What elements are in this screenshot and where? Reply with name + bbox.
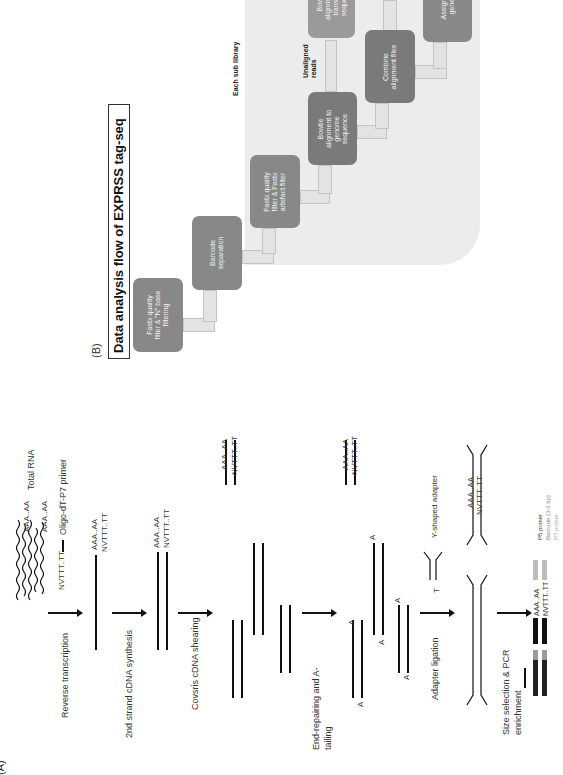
step-arrow — [48, 612, 78, 614]
unaligned-reads-label: Unaligned reads — [302, 48, 318, 78]
p7-primer-bar — [542, 560, 547, 580]
panel-a-label: (A) — [0, 760, 6, 775]
legend-p7: P7 primer — [553, 514, 559, 540]
a-tailed-fragment — [398, 605, 400, 673]
a-tailed-fragment — [352, 620, 354, 698]
cdna-strand — [95, 555, 97, 650]
step-label-2nd-strand: 2nd strand cDNA synthesis — [124, 630, 134, 738]
each-sub-library-label: Each sub library — [232, 42, 239, 96]
flow-arrow — [203, 290, 217, 322]
adapter-t: T — [432, 588, 441, 593]
step-bowtie-genome: Bowtie alignment to genome sequence — [308, 92, 357, 165]
a-overhang: A — [377, 640, 386, 645]
legend-barcode: Barcode (3-6 bp) — [545, 495, 551, 540]
a-tailed-fragment — [361, 620, 363, 698]
shear-top-seq: AAA..AA — [220, 439, 229, 470]
step-fastx-n-filter: Fastx quality filter & "N" base filterin… — [133, 278, 183, 352]
step-label-end-repair: End-repairing and A- tailing — [310, 667, 334, 750]
unaligned-arrow — [325, 40, 337, 92]
panel-b-label: (B) — [90, 343, 102, 358]
fragment — [280, 605, 282, 673]
a-tailed-fragment — [373, 543, 375, 635]
a-overhang: A — [356, 702, 365, 707]
primer-line — [62, 540, 64, 552]
y-adapter-icon — [418, 550, 448, 590]
step-fastx-artefact-filter: Fastx quality filter & Fastx artefact fi… — [250, 155, 300, 228]
ligated-product-icon — [462, 570, 492, 710]
rt-top-seq: AAA..AA — [90, 519, 99, 550]
barcode-bar — [542, 650, 547, 660]
p5-primer-bar — [533, 660, 538, 696]
figure-canvas: (B) Data analysis flow of EXPRSS tag-seq… — [0, 0, 563, 775]
a-overhang: A — [347, 620, 356, 625]
fragment — [289, 605, 291, 673]
step-barcode-separation: Barcode separation — [192, 216, 242, 290]
flow-arrow — [318, 165, 332, 194]
p5-primer-bar — [542, 660, 547, 696]
step-arrow — [302, 612, 332, 614]
ds-cdna-bottom — [166, 552, 168, 650]
step-combine-alignment: Combine alignment files — [365, 30, 415, 103]
final-bottom-seq: NVTTT..TT — [542, 582, 549, 616]
a-overhang: A — [393, 598, 402, 603]
shear-bottom-seq: NVTTT..TT — [230, 436, 239, 475]
fragment — [262, 543, 264, 635]
er-top-seq: AAA..AA — [341, 439, 350, 470]
ds-cdna-top — [157, 552, 159, 650]
er-bottom-seq: NVTTT..TT — [350, 436, 359, 475]
a-overhang: A — [368, 535, 377, 540]
fragment — [241, 620, 243, 698]
flow-arrow — [433, 42, 447, 69]
a-tailed-fragment — [382, 543, 384, 635]
lig-bottom-seq: NVTTT..TT — [475, 476, 484, 515]
fragment — [253, 543, 255, 635]
ds-top-seq: AAA..AA — [152, 517, 161, 548]
final-top-seq: AAA..AA — [533, 589, 540, 616]
insert-bar — [533, 618, 538, 644]
step-label-size-selection: Size selection & PCR enrichment — [500, 649, 524, 735]
step-label-shearing: Covsris cDNA shearing — [190, 617, 200, 710]
a-tailed-fragment — [407, 605, 409, 673]
total-rna-label: Total RNA — [26, 449, 36, 490]
primer-label: Oligo-dT-P7 primer — [58, 459, 68, 535]
primer-seq: NVTTT..TT — [57, 551, 66, 590]
step-arrow — [420, 612, 450, 614]
legend-p5: P5 primer — [537, 514, 543, 540]
rt-bottom-seq: NVTTT..TT — [100, 513, 109, 552]
polya-label: AAA..AA — [40, 501, 49, 532]
flow-arrow — [375, 103, 389, 129]
step-assign-genes: Assign to genes — [423, 0, 472, 42]
a-overhang: A — [402, 675, 411, 680]
step-label-reverse-transcription: Reverse transcription — [60, 633, 70, 718]
insert-bar — [542, 618, 547, 644]
step-arrow — [178, 612, 208, 614]
read-direction-arrow — [524, 668, 526, 688]
flow-arrow — [262, 228, 276, 254]
step-arrow — [497, 612, 527, 614]
lig-top-seq: AAA..AA — [466, 477, 475, 508]
polya-label: AAA..AA — [22, 501, 31, 532]
barcode-bar — [533, 650, 538, 660]
fragment — [232, 620, 234, 698]
merge-arrow — [383, 0, 397, 32]
step-bowtie-transcript: Bowtie alignment to transcript sequence — [308, 0, 355, 38]
y-adapter-label: Y-shaped adapter — [430, 475, 439, 538]
step-label-adapter-ligation: Adapter ligation — [430, 637, 440, 700]
ds-bottom-seq: NVTTT..TT — [162, 509, 171, 548]
panel-b-title: Data analysis flow of EXPRSS tag-seq — [111, 118, 126, 353]
step-arrow — [112, 612, 142, 614]
p7-primer-bar — [533, 560, 538, 580]
